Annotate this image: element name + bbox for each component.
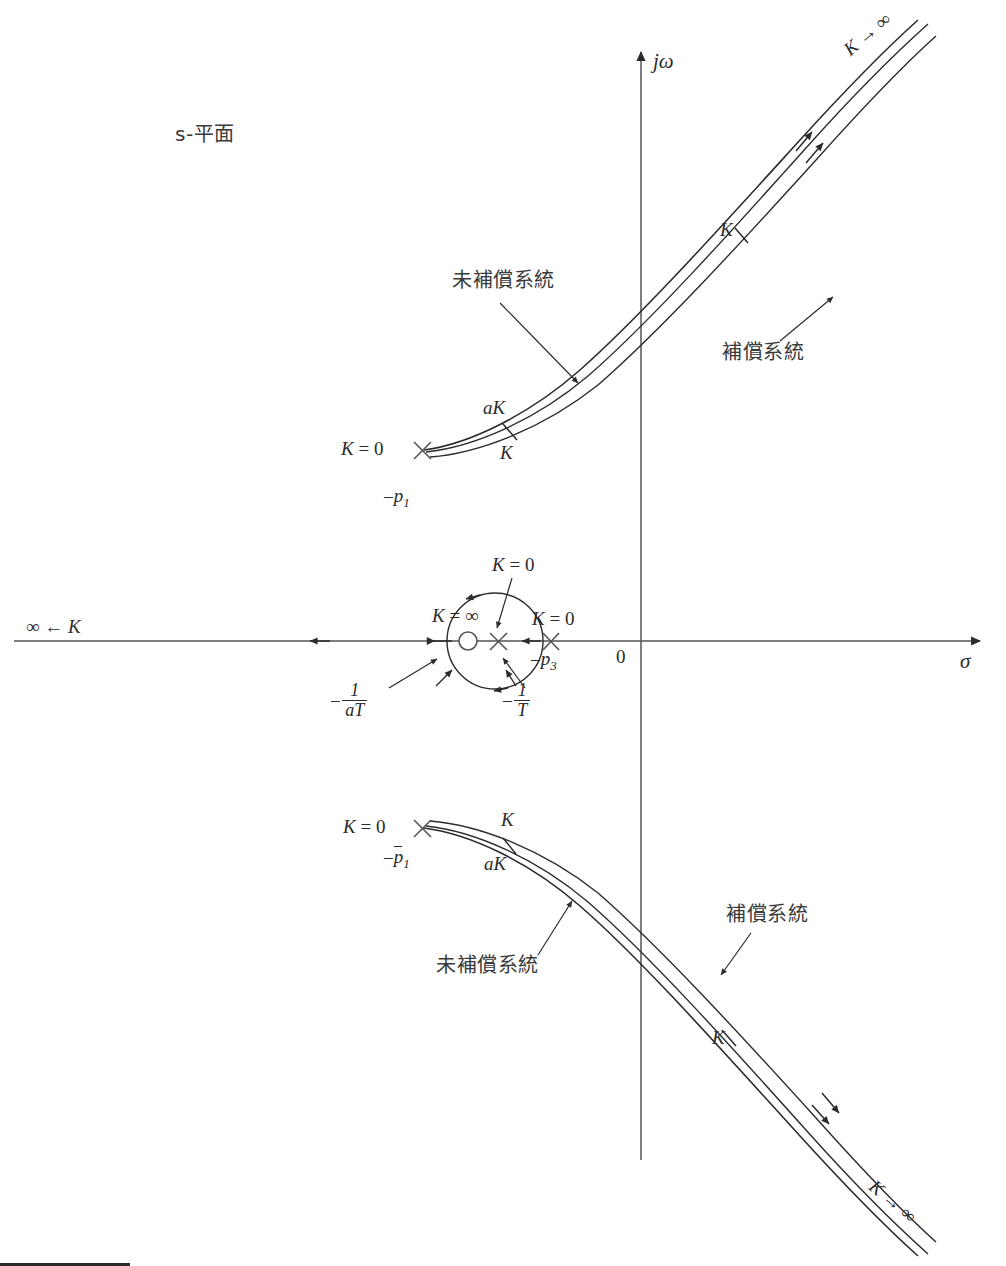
lower-leader-lines — [538, 901, 751, 975]
upper-aK-label: aK — [483, 398, 505, 417]
pole-marker-p1 — [414, 442, 431, 459]
left-K-infinity-label: ∞ ← K — [26, 617, 81, 636]
upper-compensated-label: 補償系統 — [722, 342, 804, 362]
zero-aT-label: − 1aT — [330, 682, 367, 721]
leader-compensated-lower — [721, 933, 751, 975]
origin-label: 0 — [616, 647, 626, 666]
lower-uncompensated-label: 未補償系統 — [436, 955, 539, 975]
upper-uncompensated-branch — [424, 20, 918, 450]
lower-aK-label: aK — [484, 854, 506, 873]
pole-T-label: − 1T — [502, 682, 530, 721]
circle-K-infinity-label: K = ∞ — [432, 606, 478, 625]
lower-K-zero-label: K = 0 — [343, 817, 385, 836]
zero-marker-aT — [459, 632, 477, 650]
leader-K0-top — [497, 578, 512, 628]
lower-compensated-label: 補償系統 — [726, 904, 808, 924]
pole3-label: −p3 — [530, 649, 557, 672]
upper-pole-label: −p1 — [383, 486, 410, 509]
lower-K-label: K — [501, 810, 514, 829]
upper-uncompensated-label: 未補償系統 — [452, 270, 555, 290]
lower-branch-direction-arrows — [812, 1093, 839, 1124]
lower-K-tick-label: K — [712, 1028, 725, 1047]
upper-branch-direction-arrows — [796, 132, 823, 163]
upper-K-label: K — [500, 443, 513, 462]
root-locus-canvas — [0, 0, 1006, 1266]
root-locus-figure: s-平面 jω σ 0 未補償系統 補償系統 K = 0 −p1 aK K K … — [0, 0, 1006, 1266]
plane-label: s-平面 — [175, 124, 235, 144]
circle-K-zero-top-label: K = 0 — [492, 555, 534, 574]
leader-compensated-upper — [780, 297, 833, 341]
upper-K-zero-label: K = 0 — [341, 439, 383, 458]
leader-uncompensated-upper — [500, 303, 578, 383]
upper-gain-ticks — [503, 228, 748, 440]
imaginary-axis-label: jω — [653, 51, 674, 72]
lower-pole-label: −p1 — [383, 847, 410, 870]
axes-group — [14, 52, 980, 1160]
upper-compensated-branch — [426, 24, 936, 457]
pole3-K-zero-label: K = 0 — [532, 609, 574, 628]
lower-uncompensated-branch — [424, 828, 918, 1256]
leader-zero-aT — [389, 659, 437, 688]
upper-K-tick-label: K — [720, 220, 733, 239]
real-axis-label: σ — [960, 651, 970, 672]
leader-uncompensated-lower — [538, 901, 572, 955]
lower-compensated-branch — [426, 821, 936, 1254]
